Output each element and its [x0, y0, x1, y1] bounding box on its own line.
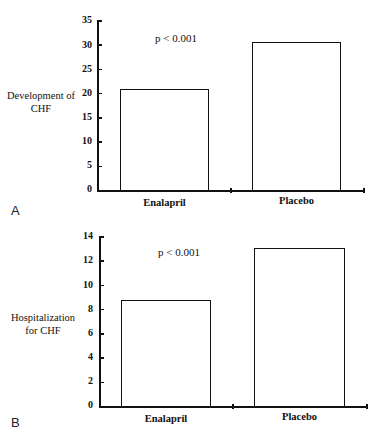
y-tick-label: 10 [73, 279, 93, 290]
y-tick [97, 20, 102, 22]
bar-enalapril-a [120, 89, 209, 191]
y-tick [97, 166, 102, 168]
y-tick-label: 25 [72, 63, 92, 74]
y-tick [99, 309, 104, 311]
panel-label-b: B [11, 415, 20, 430]
p-value-annotation-b: p < 0.001 [158, 246, 200, 258]
y-tick [97, 44, 102, 46]
y-tick [99, 333, 104, 335]
y-axis-label-line-2: CHF [0, 102, 82, 115]
y-tick-label: 30 [72, 39, 92, 50]
y-tick-label: 35 [72, 14, 92, 25]
y-tick [97, 69, 102, 71]
y-tick [97, 141, 102, 143]
y-tick [97, 93, 102, 95]
x-category-label-placebo: Placebo [252, 195, 341, 206]
x-tick [366, 404, 368, 409]
y-tick-label: 15 [72, 111, 92, 122]
bar-enalapril-b [121, 300, 211, 407]
x-category-label-placebo: Placebo [254, 411, 345, 422]
y-tick [99, 260, 104, 262]
y-tick-label: 20 [72, 87, 92, 98]
bar-placebo-a [252, 42, 341, 191]
y-tick-label: 4 [73, 351, 93, 362]
y-tick [99, 236, 104, 238]
panel-label-a: A [11, 203, 20, 218]
x-tick [232, 404, 234, 409]
x-tick [230, 188, 232, 193]
y-axis-label-line-2: for CHF [2, 324, 84, 337]
p-value-annotation-a: p < 0.001 [155, 32, 197, 44]
y-tick-label: 14 [73, 230, 93, 241]
y-axis-label-b: Hospitalization for CHF [2, 311, 84, 337]
y-axis-label-line-1: Development of [0, 89, 82, 102]
y-tick-label: 12 [73, 254, 93, 265]
y-tick [99, 382, 104, 384]
y-tick [99, 406, 104, 408]
y-axis-label-a: Development of CHF [0, 89, 82, 115]
y-tick-label: 10 [72, 135, 92, 146]
y-tick [99, 285, 104, 287]
y-tick [99, 357, 104, 359]
bar-placebo-b [254, 248, 345, 407]
y-tick [97, 117, 102, 119]
x-category-label-enalapril: Enalapril [121, 413, 211, 424]
y-tick-label: 2 [73, 375, 93, 386]
x-category-label-enalapril: Enalapril [120, 197, 209, 208]
y-tick-label: 0 [73, 399, 93, 410]
y-tick [97, 190, 102, 192]
y-tick-label: 0 [72, 183, 92, 194]
y-tick-label: 5 [72, 159, 92, 170]
y-axis-label-line-1: Hospitalization [2, 311, 84, 324]
y-tick-label: 6 [73, 327, 93, 338]
x-tick [363, 188, 365, 193]
y-tick-label: 8 [73, 303, 93, 314]
